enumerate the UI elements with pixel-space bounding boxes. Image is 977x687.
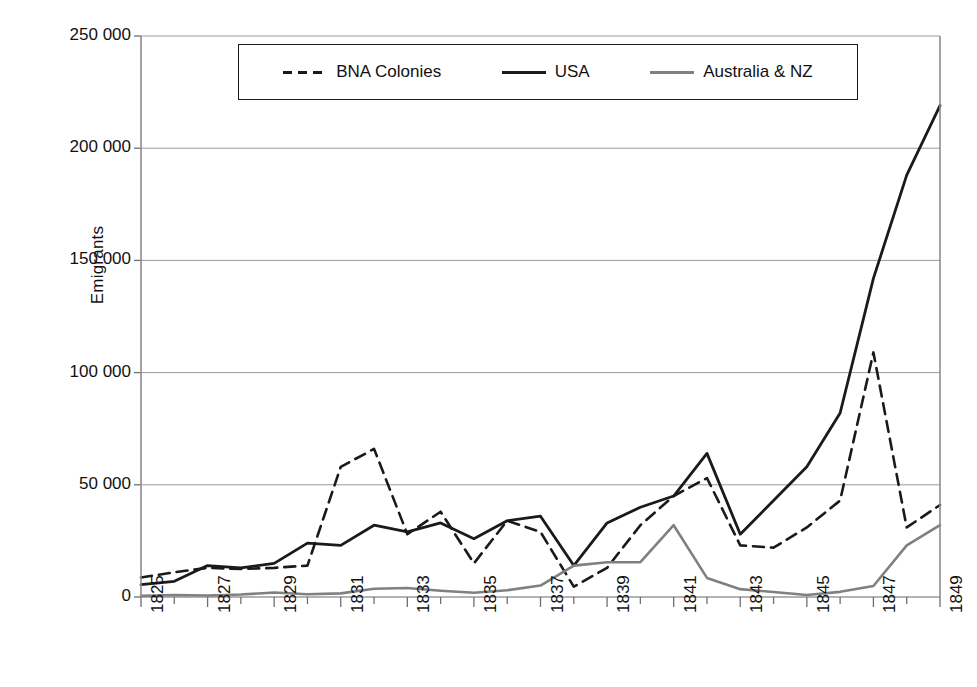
axis-frame — [141, 36, 940, 597]
emigration-line-chart: Emigrants 050 000100 000150 000200 00025… — [0, 0, 977, 687]
legend-item: USA — [502, 62, 590, 82]
x-tick-label: 1845 — [814, 575, 834, 613]
x-tick-label: 1841 — [681, 575, 701, 613]
series-line-0 — [141, 352, 940, 586]
legend-swatch-icon — [650, 71, 694, 74]
x-tick-label: 1827 — [215, 575, 235, 613]
x-tick-label: 1829 — [281, 575, 301, 613]
legend-swatch-icon — [502, 71, 546, 74]
x-tick-label: 1849 — [947, 575, 967, 613]
y-tick-label: 250 000 — [28, 25, 131, 45]
x-tick-label: 1833 — [414, 575, 434, 613]
legend-label: Australia & NZ — [703, 62, 813, 82]
x-tick-label: 1835 — [481, 575, 501, 613]
x-tick-label: 1847 — [880, 575, 900, 613]
axis-ticks — [134, 36, 940, 607]
y-tick-label: 150 000 — [28, 249, 131, 269]
series-lines — [141, 106, 940, 596]
y-tick-label: 100 000 — [28, 362, 131, 382]
x-tick-label: 1831 — [348, 575, 368, 613]
x-tick-label: 1837 — [548, 575, 568, 613]
legend-swatch-icon — [283, 71, 327, 74]
x-tick-label: 1825 — [148, 575, 168, 613]
y-tick-label: 50 000 — [28, 474, 131, 494]
legend-item: Australia & NZ — [650, 62, 813, 82]
x-tick-label: 1843 — [747, 575, 767, 613]
y-tick-label: 0 — [28, 586, 131, 606]
legend-label: BNA Colonies — [336, 62, 441, 82]
legend-item: BNA Colonies — [283, 62, 441, 82]
gridlines — [141, 36, 940, 597]
series-line-1 — [141, 106, 940, 585]
legend-label: USA — [555, 62, 590, 82]
x-tick-label: 1839 — [614, 575, 634, 613]
y-tick-label: 200 000 — [28, 137, 131, 157]
chart-legend: BNA ColoniesUSAAustralia & NZ — [238, 44, 858, 100]
